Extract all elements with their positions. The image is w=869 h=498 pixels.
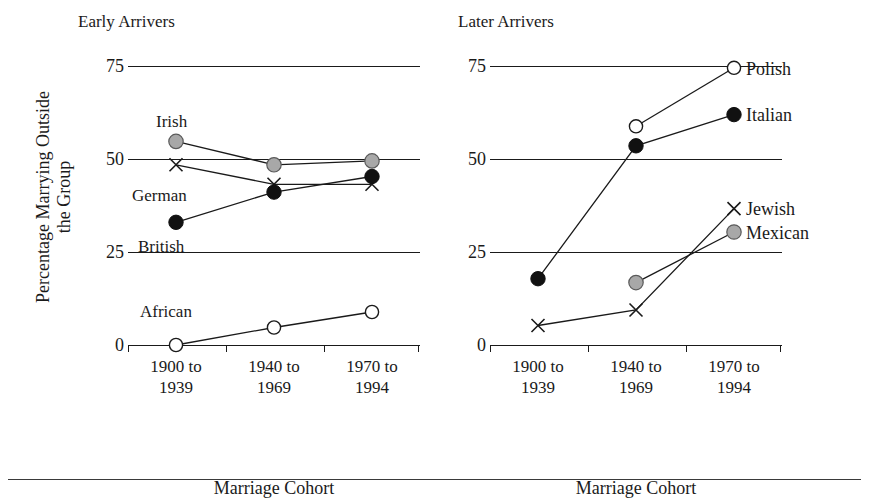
marker-irish-1970 [365,154,379,168]
series-line-mexican [636,232,734,283]
figure-two-panel-line-chart: Percentage Marrying Outside the Group Ea… [0,0,869,498]
xtick-1970-1994-left: 1970 to 1994 [324,356,420,398]
marker-irish-1900 [169,134,183,148]
panel-title-early: Early Arrivers [78,12,175,32]
ytick-75-right: 75 [468,57,486,75]
series-label-mexican: Mexican [746,224,809,242]
ytick-25-right: 25 [468,243,486,261]
ytick-75-left: 75 [106,57,124,75]
series-label-african: African [140,303,192,320]
panel-later-arrivers: Later Arrivers 75 50 25 0 1900 to 1939 1… [440,0,869,498]
marker-jewish-1970 [728,202,741,215]
marker-african-1940 [267,321,280,334]
marker-african-1900 [169,338,182,351]
marker-polish-1970 [727,61,740,74]
ytick-0-right: 0 [477,336,486,354]
series-label-british: British [138,238,184,255]
marker-british-1940 [267,185,281,199]
marker-italian-1940 [629,139,643,153]
x-axis-title-right: Marriage Cohort [490,478,782,498]
ytick-50-right: 50 [468,150,486,168]
series-label-jewish: Jewish [746,200,795,218]
marker-italian-1970 [727,107,741,121]
series-line-polish [636,68,734,127]
xtick-1900-1939-right: 1900 to 1939 [490,356,586,398]
series-label-polish: Polish [746,60,791,78]
ytick-50-left: 50 [106,150,124,168]
panel-title-later: Later Arrivers [458,12,554,32]
xtick-1940-1969-left: 1940 to 1969 [226,356,322,398]
ytick-25-left: 25 [106,243,124,261]
bottom-horizontal-rule [8,479,861,480]
series-line-jewish [538,209,734,326]
marker-jewish-1940 [630,304,643,317]
marker-british-1970 [365,169,379,183]
x-axis-title-left: Marriage Cohort [128,478,420,498]
marker-mexican-1970 [727,225,741,239]
panel-early-arrivers: Early Arrivers 75 50 25 0 1900 to 1939 1… [60,0,460,498]
marker-polish-1940 [629,120,642,133]
marker-italian-1900 [531,272,545,286]
plot-area-right: 75 50 25 0 1900 to 1939 1940 to 1969 197… [490,60,782,352]
series-label-irish: Irish [156,113,187,130]
marker-mexican-1940 [629,275,643,289]
series-layer-right [490,60,782,352]
marker-irish-1940 [267,158,281,172]
marker-african-1970 [365,305,378,318]
xtick-1940-1969-right: 1940 to 1969 [588,356,684,398]
plot-area-left: 75 50 25 0 1900 to 1939 1940 to 1969 197… [128,60,420,352]
series-label-german: German [132,187,187,204]
xtick-1970-1994-right: 1970 to 1994 [686,356,782,398]
marker-jewish-1900 [532,319,545,332]
marker-british-1900 [169,215,183,229]
ytick-0-left: 0 [115,336,124,354]
xtick-1900-1939-left: 1900 to 1939 [128,356,224,398]
series-label-italian: Italian [746,106,792,124]
marker-german-1900 [170,158,183,171]
